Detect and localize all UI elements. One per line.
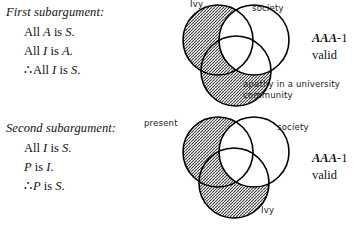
second-subargument-heading: Second subargument: — [6, 121, 156, 136]
first-subargument-heading: First subargument: — [6, 5, 156, 20]
label-present-second-diagram: present — [144, 118, 178, 129]
label-ivy-first-diagram: Ivy — [190, 0, 203, 10]
line-suffix: . — [50, 160, 53, 174]
line-prefix: All — [24, 25, 43, 39]
line-mid: is — [47, 44, 62, 58]
line-mid: is — [56, 63, 71, 77]
line-suffix: . — [70, 44, 73, 58]
line-mid: is — [41, 179, 56, 193]
line-var1: A — [43, 25, 51, 39]
label-society-second-diagram: society — [277, 122, 309, 133]
therefore-icon: ∴ — [24, 179, 33, 193]
line-suffix: . — [77, 63, 80, 77]
mood-letters: AAA — [312, 151, 337, 165]
label-apathy-first-diagram: apathy in a university community — [243, 79, 361, 100]
mood-figure: -1 — [337, 151, 347, 165]
therefore-icon: ∴ — [24, 63, 33, 77]
venn-diagram-figure: First subargument: All A is S. All I is … — [0, 0, 361, 230]
syllogism-mood-first: AAA-1 — [312, 30, 361, 46]
line-prefix: All — [33, 63, 52, 77]
label-society-first-diagram: society — [252, 3, 284, 14]
line-var1: P — [33, 179, 41, 193]
premise-line: P is I. — [24, 158, 156, 177]
line-mid: is — [47, 141, 62, 155]
line-mid: is — [32, 160, 47, 174]
line-prefix: All — [24, 44, 43, 58]
label-ivy-second-diagram: Ivy — [261, 205, 274, 216]
line-var2: A — [62, 44, 70, 58]
line-suffix: . — [61, 179, 64, 193]
second-subargument-verdict: AAA-1 valid — [312, 150, 361, 184]
line-suffix: . — [72, 25, 75, 39]
second-subargument-block: Second subargument: All I is S. P is I. … — [6, 121, 156, 196]
validity-status-second: valid — [312, 166, 361, 184]
line-suffix: . — [68, 141, 71, 155]
premise-line: All I is A. — [24, 42, 156, 61]
validity-status-first: valid — [312, 46, 361, 64]
conclusion-line: ∴P is S. — [24, 177, 156, 196]
premise-line: All A is S. — [24, 23, 156, 42]
syllogism-mood-second: AAA-1 — [312, 150, 361, 166]
line-var1: P — [24, 160, 32, 174]
premise-line: All I is S. — [24, 139, 156, 158]
first-subargument-block: First subargument: All A is S. All I is … — [6, 5, 156, 80]
mood-figure: -1 — [337, 31, 347, 45]
line-mid: is — [51, 25, 66, 39]
first-subargument-lines: All A is S. All I is A. ∴All I is S. — [6, 23, 156, 80]
mood-letters: AAA — [312, 31, 337, 45]
line-prefix: All — [24, 141, 43, 155]
second-subargument-lines: All I is S. P is I. ∴P is S. — [6, 139, 156, 196]
first-subargument-verdict: AAA-1 valid — [312, 30, 361, 64]
conclusion-line: ∴All I is S. — [24, 61, 156, 80]
